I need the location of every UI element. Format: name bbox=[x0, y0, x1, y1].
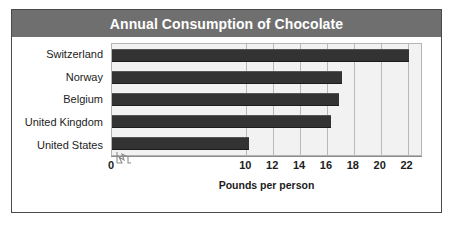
bar-row bbox=[112, 44, 421, 66]
x-axis-tick-label: 10 bbox=[239, 159, 251, 171]
page-title: Annual Consumption of Chocolate bbox=[110, 16, 343, 32]
bar-united-kingdom bbox=[112, 115, 331, 128]
plot-area bbox=[111, 43, 422, 156]
bar-united-states bbox=[112, 137, 249, 150]
bar-row bbox=[112, 133, 421, 155]
category-label: United Kingdom bbox=[12, 111, 109, 134]
x-axis-tick-labels: 010121416182022 bbox=[111, 159, 422, 175]
x-axis-tick-label: 22 bbox=[400, 159, 412, 171]
x-axis-tick-label: 12 bbox=[266, 159, 278, 171]
x-axis-title: Pounds per person bbox=[111, 179, 422, 191]
bar-norway bbox=[112, 71, 342, 84]
bar-row bbox=[112, 111, 421, 133]
bar-row bbox=[112, 66, 421, 88]
x-axis-line bbox=[111, 156, 422, 157]
x-axis-tick-label: 0 bbox=[108, 159, 114, 171]
bar-series bbox=[112, 44, 421, 155]
chart-body: Switzerland Norway Belgium United Kingdo… bbox=[12, 37, 441, 212]
bar-belgium bbox=[112, 93, 339, 106]
category-label: United States bbox=[12, 133, 109, 156]
bar-switzerland bbox=[112, 49, 409, 62]
chart-figure: Annual Consumption of Chocolate Switzerl… bbox=[11, 9, 442, 213]
x-axis-tick-label: 16 bbox=[320, 159, 332, 171]
category-label: Norway bbox=[12, 66, 109, 89]
bar-row bbox=[112, 88, 421, 110]
x-axis-tick-label: 18 bbox=[347, 159, 359, 171]
x-axis-tick-label: 14 bbox=[293, 159, 305, 171]
x-axis-tick-label: 20 bbox=[374, 159, 386, 171]
category-label: Belgium bbox=[12, 88, 109, 111]
category-label: Switzerland bbox=[12, 43, 109, 66]
chart-title-bar: Annual Consumption of Chocolate bbox=[12, 10, 441, 37]
category-axis-labels: Switzerland Norway Belgium United Kingdo… bbox=[12, 43, 109, 156]
